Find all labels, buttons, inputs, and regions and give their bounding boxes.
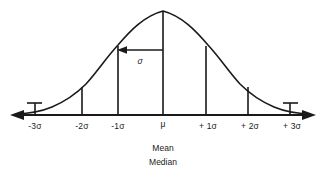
axis-label-mu: μ — [160, 119, 165, 129]
axis-label-plus-3-sigma: + 3σ — [283, 121, 301, 131]
caption-median: Median — [149, 157, 177, 167]
axis-label-minus-3-sigma: -3σ — [28, 121, 41, 131]
bell-curve-figure: -3σ -2σ -1σ μ + 1σ + 2σ + 3σ σ Mean Medi… — [0, 0, 326, 178]
axis-label-minus-1-sigma: -1σ — [111, 121, 124, 131]
axis-arrow-left-icon — [10, 110, 24, 120]
sigma-annotation-label: σ — [137, 56, 142, 66]
axis-label-plus-2-sigma: + 2σ — [241, 121, 259, 131]
axis-label-plus-1-sigma: + 1σ — [199, 121, 217, 131]
axis-label-minus-2-sigma: -2σ — [75, 121, 88, 131]
caption-mean: Mean — [152, 143, 173, 153]
axis-arrow-right-icon — [302, 110, 316, 120]
